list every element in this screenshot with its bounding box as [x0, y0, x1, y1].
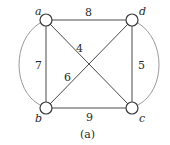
weight-b-d: 6 — [64, 71, 71, 84]
weight-a-c: 4 — [76, 42, 83, 55]
weight-b-c: 9 — [86, 111, 93, 124]
node-label-d: d — [139, 5, 146, 18]
weight-d-c: 5 — [138, 59, 145, 72]
node-d — [126, 14, 138, 26]
weight-a-b: 7 — [35, 59, 42, 72]
node-c — [126, 102, 138, 114]
graph-diagram: 8 4 7 6 5 9 a d b c (a) — [0, 0, 170, 145]
weight-a-d: 8 — [85, 6, 92, 19]
node-label-b: b — [35, 112, 42, 125]
node-label-c: c — [139, 112, 145, 125]
figure-caption: (a) — [80, 128, 95, 141]
node-a — [40, 14, 52, 26]
node-label-a: a — [35, 5, 42, 18]
